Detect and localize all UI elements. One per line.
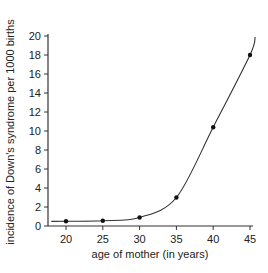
y-tick-label: 0 xyxy=(35,220,41,232)
y-ticks: 02468101214161820 xyxy=(29,30,48,232)
axes xyxy=(48,34,253,226)
y-tick-label: 16 xyxy=(29,68,41,80)
y-tick-label: 10 xyxy=(29,125,41,137)
data-point xyxy=(248,53,252,57)
y-tick-label: 20 xyxy=(29,30,41,42)
x-tick-label: 25 xyxy=(97,233,109,245)
data-point xyxy=(137,215,141,219)
x-tick-label: 30 xyxy=(133,233,145,245)
x-axis-label: age of mother (in years) xyxy=(92,248,209,260)
x-tick-label: 40 xyxy=(207,233,219,245)
data-point xyxy=(174,195,178,199)
y-tick-label: 12 xyxy=(29,106,41,118)
y-tick-label: 6 xyxy=(35,163,41,175)
y-tick-label: 4 xyxy=(35,182,41,194)
data-point xyxy=(64,219,68,223)
x-tick-label: 20 xyxy=(60,233,72,245)
y-tick-label: 18 xyxy=(29,49,41,61)
fit-curve xyxy=(51,37,255,221)
x-ticks: 202530354045 xyxy=(60,226,256,245)
x-tick-label: 35 xyxy=(170,233,182,245)
y-axis-label: incidence of Down's syndrome per 1000 bi… xyxy=(4,19,16,245)
y-tick-label: 8 xyxy=(35,144,41,156)
data-points xyxy=(64,53,252,224)
chart: 202530354045 02468101214161820 age of mo… xyxy=(0,0,268,273)
y-tick-label: 14 xyxy=(29,87,41,99)
data-point xyxy=(101,219,105,223)
data-point xyxy=(211,125,215,129)
x-tick-label: 45 xyxy=(244,233,256,245)
y-tick-label: 2 xyxy=(35,201,41,213)
